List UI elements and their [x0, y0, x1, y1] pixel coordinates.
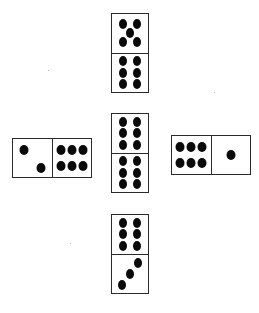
- pip: [198, 142, 207, 152]
- domino-bottom-end-1: [112, 215, 148, 254]
- pip: [119, 140, 127, 150]
- domino-left-end-2: [52, 139, 92, 177]
- pip: [67, 161, 76, 171]
- domino-bottom: [111, 214, 149, 294]
- domino-center-end-2: [112, 153, 148, 193]
- pip: [119, 179, 127, 189]
- pip: [56, 161, 65, 171]
- domino-top-end-1: [112, 14, 148, 53]
- pip: [133, 179, 141, 189]
- paper-speck: [48, 70, 49, 71]
- pip: [187, 142, 196, 152]
- domino-left-end-1: [13, 139, 52, 177]
- pip: [67, 145, 76, 155]
- pip: [133, 128, 141, 138]
- pip: [133, 37, 141, 47]
- pip: [134, 258, 142, 268]
- pip: [119, 19, 127, 29]
- pip: [19, 145, 28, 155]
- pip: [176, 142, 185, 152]
- domino-center: [111, 113, 149, 193]
- pip: [226, 150, 235, 160]
- pip: [119, 68, 127, 78]
- pip: [133, 140, 141, 150]
- pip: [119, 56, 127, 66]
- pip: [198, 158, 207, 168]
- pip: [119, 218, 127, 228]
- pip: [78, 145, 87, 155]
- pip: [187, 158, 196, 168]
- domino-left: [12, 138, 92, 178]
- pip: [119, 241, 127, 251]
- domino-center-end-1: [112, 114, 148, 153]
- pip: [119, 229, 127, 239]
- pip: [133, 218, 141, 228]
- domino-right-end-2: [211, 136, 251, 174]
- pip: [133, 156, 141, 166]
- domino-top: [111, 13, 149, 93]
- pip: [118, 280, 126, 290]
- pip: [119, 79, 127, 89]
- pip: [133, 56, 141, 66]
- pip: [176, 158, 185, 168]
- pip: [133, 168, 141, 178]
- pip: [133, 19, 141, 29]
- domino-top-end-2: [112, 53, 148, 93]
- pip: [78, 161, 87, 171]
- pip: [133, 229, 141, 239]
- pip: [133, 79, 141, 89]
- pip: [133, 241, 141, 251]
- pip: [56, 145, 65, 155]
- domino-bottom-end-2: [112, 254, 148, 294]
- pip: [36, 163, 45, 173]
- pip: [119, 37, 127, 47]
- pip: [133, 68, 141, 78]
- pip: [119, 168, 127, 178]
- pip: [119, 128, 127, 138]
- domino-right: [171, 135, 251, 175]
- pip: [126, 269, 134, 279]
- pip: [133, 117, 141, 127]
- paper-speck: [214, 92, 215, 93]
- domino-right-end-1: [172, 136, 211, 174]
- pip: [119, 156, 127, 166]
- pip: [126, 28, 134, 38]
- pip: [119, 117, 127, 127]
- paper-speck: [70, 243, 71, 244]
